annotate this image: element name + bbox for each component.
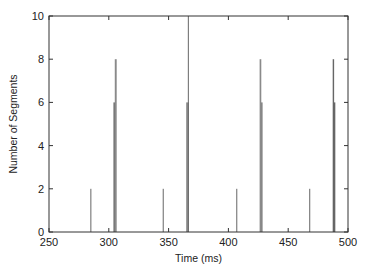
x-tick-label: 300 <box>100 236 118 248</box>
y-tick-label: 6 <box>38 96 44 108</box>
bar <box>236 189 237 232</box>
bar <box>309 189 310 232</box>
x-tick-label: 400 <box>219 236 237 248</box>
y-tick-label: 8 <box>38 53 44 65</box>
plot-frame <box>49 16 348 232</box>
segments-over-time-chart: 250300350400450500 0246810 Time (ms) Num… <box>0 0 371 273</box>
y-tick-label: 10 <box>32 10 44 22</box>
bar-series <box>90 16 335 232</box>
bar <box>90 189 91 232</box>
y-tick-label: 0 <box>38 226 44 238</box>
bar <box>115 59 117 232</box>
x-tick-label: 450 <box>279 236 297 248</box>
y-tick-label: 4 <box>38 140 44 152</box>
bar <box>334 102 335 232</box>
bar <box>163 189 164 232</box>
x-axis-title: Time (ms) <box>175 252 222 264</box>
bar <box>113 102 114 232</box>
y-axis: 0246810 <box>32 10 348 238</box>
x-tick-label: 500 <box>339 236 357 248</box>
y-axis-title: Number of Segments <box>7 74 19 173</box>
x-tick-label: 350 <box>159 236 177 248</box>
bar <box>261 102 262 232</box>
bar <box>260 59 262 232</box>
bar <box>188 16 189 232</box>
y-tick-label: 2 <box>38 183 44 195</box>
